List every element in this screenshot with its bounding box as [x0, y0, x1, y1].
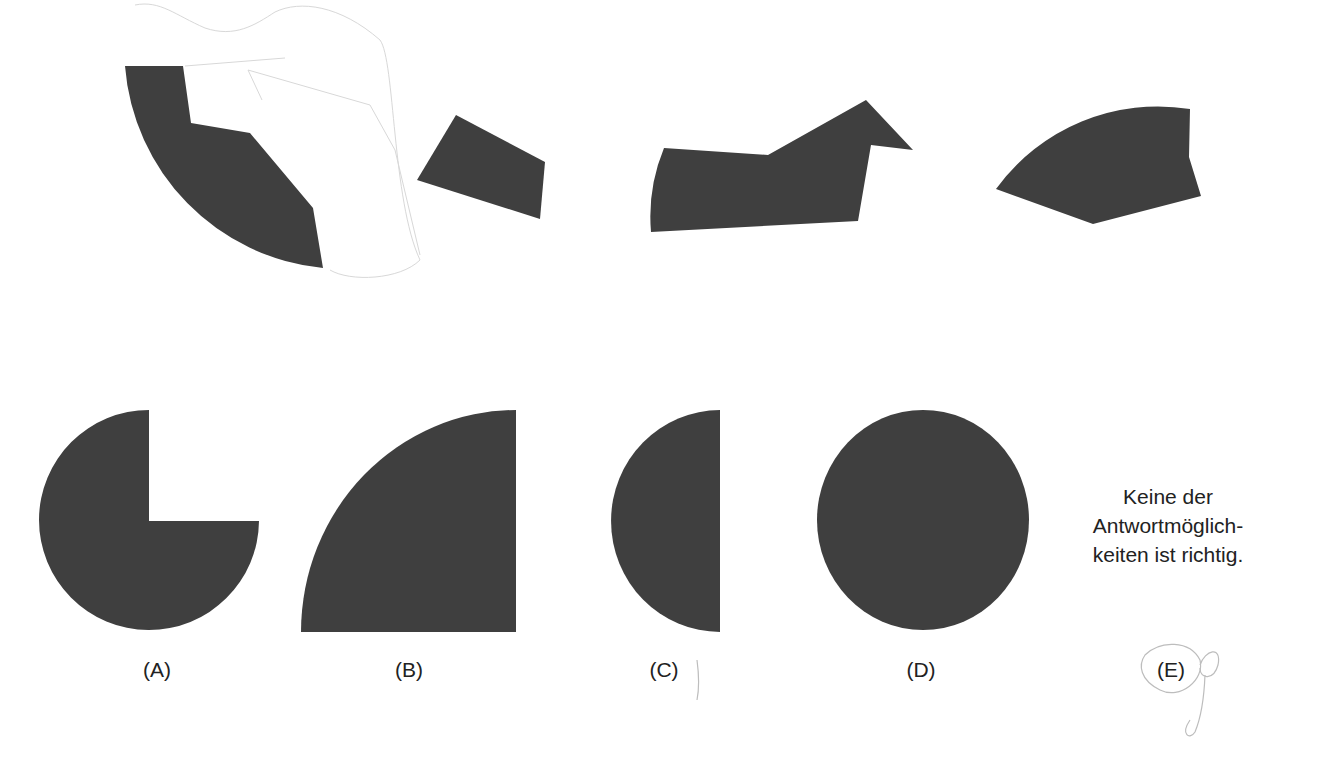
- piece-4-shape: [996, 106, 1201, 224]
- answer-e-line-2: Antwortmöglich-: [1058, 511, 1278, 540]
- answer-e-text[interactable]: Keine der Antwortmöglich- keiten ist ric…: [1058, 482, 1278, 569]
- answer-e-line-1: Keine der: [1058, 482, 1278, 511]
- answer-e-line-3: keiten ist richtig.: [1058, 540, 1278, 569]
- answer-b-shape[interactable]: [301, 410, 516, 632]
- answer-e-label[interactable]: (E): [1141, 658, 1201, 682]
- piece-3-shape: [650, 100, 913, 232]
- piece-1-shape: [125, 66, 323, 268]
- answer-a-shape[interactable]: [39, 410, 259, 630]
- answer-c-label[interactable]: (C): [634, 658, 694, 682]
- answer-a-label[interactable]: (A): [127, 658, 187, 682]
- puzzle-canvas: [0, 0, 1332, 760]
- piece-2-shape: [417, 115, 545, 219]
- answer-c-shape[interactable]: [611, 410, 720, 632]
- answer-b-label[interactable]: (B): [379, 658, 439, 682]
- answer-d-label[interactable]: (D): [891, 658, 951, 682]
- answer-d-shape[interactable]: [817, 410, 1029, 630]
